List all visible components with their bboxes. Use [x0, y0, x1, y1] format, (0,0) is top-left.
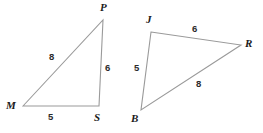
- side-label-ps: 6: [105, 63, 110, 73]
- triangle-jbr-outline: [141, 32, 241, 110]
- side-label-mp: 8: [49, 52, 54, 62]
- vertex-label-r: R: [245, 38, 252, 49]
- vertex-label-p: P: [100, 2, 107, 13]
- vertex-label-m: M: [6, 100, 16, 111]
- triangle-mps-outline: [23, 20, 103, 106]
- vertex-label-b: B: [131, 113, 138, 124]
- side-label-ms: 5: [48, 112, 53, 122]
- vertex-label-j: J: [146, 14, 152, 25]
- vertex-label-s: S: [94, 112, 100, 123]
- side-label-jr: 6: [192, 24, 197, 34]
- side-label-br: 8: [196, 79, 201, 89]
- geometry-figure: M P S 8 6 5 J R B 6 5 8: [0, 0, 263, 133]
- side-label-jb: 5: [134, 63, 139, 73]
